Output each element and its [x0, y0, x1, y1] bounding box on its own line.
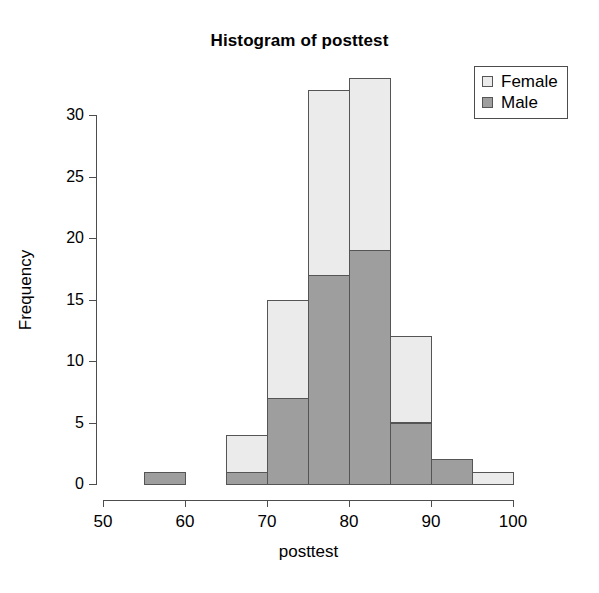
y-axis-tick-label-text: 20 — [44, 230, 84, 246]
x-axis-tick — [267, 500, 268, 507]
y-axis-line — [96, 115, 97, 485]
histogram-plot: Histogram of posttest 051015202530 Frequ… — [0, 0, 599, 593]
x-axis-tick-label: 100 — [483, 512, 543, 532]
x-axis-tick — [103, 500, 104, 507]
x-axis-tick — [431, 500, 432, 507]
y-axis-tick — [89, 423, 96, 424]
legend-item-label: Male — [501, 93, 538, 112]
x-axis-tick — [185, 500, 186, 507]
y-axis-tick — [89, 484, 96, 485]
x-axis-tick-label: 80 — [319, 512, 379, 532]
y-axis-tick-label: 30 — [40, 107, 84, 123]
y-axis-tick-label-text: 30 — [44, 107, 84, 123]
y-axis-title: Frequency — [16, 220, 36, 360]
histogram-bar-female — [472, 472, 514, 485]
histogram-bar-female — [308, 90, 350, 276]
histogram-bar-male — [390, 423, 432, 486]
legend-swatch-icon — [482, 97, 493, 108]
x-axis-tick-label: 70 — [237, 512, 297, 532]
histogram-bar-male — [308, 275, 350, 485]
histogram-bar-male — [349, 250, 391, 485]
histogram-bar-male — [267, 398, 309, 485]
histogram-bar-male — [431, 459, 473, 485]
x-axis-line — [103, 500, 514, 501]
legend-item-label: Female — [501, 72, 558, 91]
x-axis-tick-label: 60 — [155, 512, 215, 532]
x-axis-tick-label: 90 — [401, 512, 461, 532]
legend-item: Male — [482, 92, 558, 113]
y-axis-tick-label-text: 5 — [44, 415, 84, 431]
histogram-bar-female — [267, 300, 309, 399]
legend-item: Female — [482, 71, 558, 92]
plot-area — [103, 80, 513, 484]
y-axis-tick — [89, 177, 96, 178]
y-axis-tick — [89, 115, 96, 116]
y-axis-tick-label-text: 15 — [44, 292, 84, 308]
chart-legend: FemaleMale — [474, 66, 568, 119]
legend-swatch-icon — [482, 76, 493, 87]
chart-title: Histogram of posttest — [0, 31, 599, 51]
y-axis-tick-label: 25 — [40, 169, 84, 185]
x-axis-tick — [513, 500, 514, 507]
x-axis-title: posttest — [103, 542, 514, 562]
y-axis-tick — [89, 300, 96, 301]
y-axis-tick-label-text: 25 — [44, 169, 84, 185]
histogram-bar-female — [390, 336, 432, 423]
histogram-bar-male — [226, 472, 268, 485]
x-axis-tick-label: 50 — [73, 512, 133, 532]
y-axis-tick — [89, 361, 96, 362]
histogram-bar-female — [226, 435, 268, 473]
y-axis-tick-label: 5 — [40, 415, 84, 431]
y-axis-tick-label-text: 10 — [44, 353, 84, 369]
x-axis-tick — [349, 500, 350, 507]
y-axis-tick-label-text: 0 — [44, 476, 84, 492]
y-axis-tick — [89, 238, 96, 239]
y-axis-tick-label: 15 — [40, 292, 84, 308]
histogram-bar-male — [144, 472, 186, 485]
y-axis-tick-label: 0 — [40, 476, 84, 492]
y-axis-tick-label: 20 — [40, 230, 84, 246]
histogram-bar-female — [349, 78, 391, 251]
y-axis-tick-label: 10 — [40, 353, 84, 369]
